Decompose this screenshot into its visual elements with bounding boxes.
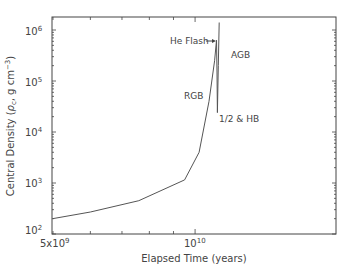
annotation-agb: AGB xyxy=(231,50,250,60)
ytick-1e4: 104 xyxy=(25,126,43,138)
annotation-rgb: RGB xyxy=(184,91,203,101)
ytick-1e2: 102 xyxy=(25,224,42,236)
y-tick-labels: 106 105 104 103 102 xyxy=(25,25,43,236)
chart-container: 106 105 104 103 102 5x109 1010 Elapsed T… xyxy=(0,0,351,275)
plot-frame xyxy=(52,17,336,234)
xtick-1e10: 1010 xyxy=(184,237,206,249)
density-curve xyxy=(53,23,219,219)
xtick-5e9: 5x109 xyxy=(40,237,69,249)
annotation-hb: 1/2 & HB xyxy=(219,114,259,124)
ytick-1e5: 105 xyxy=(25,76,42,88)
axis-ticks xyxy=(52,17,336,234)
chart-svg: 106 105 104 103 102 5x109 1010 Elapsed T… xyxy=(0,0,351,275)
ytick-1e3: 103 xyxy=(25,177,42,189)
annotation-he-flash: He Flash xyxy=(170,36,209,46)
arrow-head-icon xyxy=(212,39,216,43)
ytick-1e6: 106 xyxy=(25,25,43,37)
x-axis-label: Elapsed Time (years) xyxy=(141,253,247,264)
y-axis-label: Central Density (ρc, g cm−3) xyxy=(4,56,18,196)
